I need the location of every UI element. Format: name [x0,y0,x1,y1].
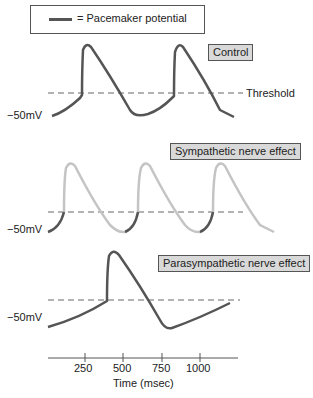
action-potential-trace [64,163,274,232]
time-axis [48,353,238,362]
tick-label: 500 [113,362,131,374]
control-trace [52,45,234,117]
sympathetic-label: Sympathetic nerve effect [170,143,301,160]
control-label: Control [208,44,253,61]
voltage-label: −50mV [7,311,42,323]
tick-label: 250 [74,362,92,374]
voltage-label: −50mV [7,223,42,235]
parasympathetic-label: Parasympathetic nerve effect [158,255,310,272]
threshold-label: Threshold [246,87,295,99]
pacemaker-swatch-icon [49,18,72,21]
sympathetic-panel [48,163,274,232]
axis-title: Time (msec) [113,377,174,389]
legend-label: = Pacemaker potential [77,12,187,24]
tick-label: 1000 [186,362,210,374]
voltage-label: −50mV [7,109,42,121]
pacemaker-diagram [0,0,313,398]
tick-label: 750 [152,362,170,374]
legend: = Pacemaker potential [30,5,205,34]
